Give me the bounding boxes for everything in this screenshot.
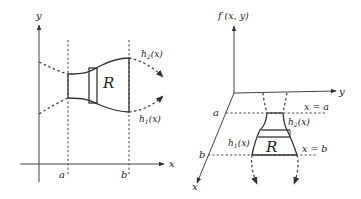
left-strip-rect: [89, 68, 97, 103]
left-lower-curve-dashed-right: [129, 96, 163, 112]
left-upper-curve-label: h2(x): [141, 49, 163, 60]
left-y-axis-label: y: [35, 10, 42, 21]
right-lower-curve-solid: [252, 113, 267, 155]
left-tick-b: b: [121, 169, 127, 180]
right-line-b-label: x = b: [302, 143, 327, 154]
right-y-axis-label: y: [338, 86, 345, 97]
left-lower-curve-label: h1(x): [139, 114, 161, 125]
right-tick-b: b: [199, 149, 205, 160]
left-lower-curve-solid: [68, 98, 129, 112]
right-vertical-axis-label: f (x, y): [217, 10, 249, 21]
left-x-axis-label: x: [169, 158, 175, 169]
right-diagram: f (x, y) y x a b x = a x = b R h2(x) h1(…: [192, 10, 345, 192]
right-tick-a: a: [213, 107, 219, 118]
right-x-axis-label: x: [192, 181, 198, 192]
right-lower-curve-label: h1(x): [228, 138, 250, 149]
right-region-label: R: [265, 138, 277, 156]
right-lower-curve-dashed-bottom: [252, 155, 257, 184]
right-lower-curve-dashed-top: [263, 93, 267, 113]
left-upper-curve-dashed-right: [129, 58, 163, 77]
diagram-canvas: y x a b R h2(x) h1(x) f (x, y) y: [0, 0, 361, 199]
left-region-label: R: [102, 74, 114, 92]
left-upper-curve-dashed-left: [39, 62, 68, 74]
right-upper-curve-dashed-top: [283, 93, 287, 113]
right-line-a-label: x = a: [304, 101, 329, 112]
right-y-axis: [234, 91, 336, 93]
left-tick-a: a: [59, 169, 65, 180]
left-lower-curve-dashed-left: [39, 98, 68, 114]
left-upper-curve-solid: [68, 58, 129, 74]
right-upper-curve-dashed-bottom: [294, 155, 298, 184]
right-upper-curve-label: h2(x): [288, 117, 310, 128]
left-diagram: y x a b R h2(x) h1(x): [20, 10, 175, 182]
